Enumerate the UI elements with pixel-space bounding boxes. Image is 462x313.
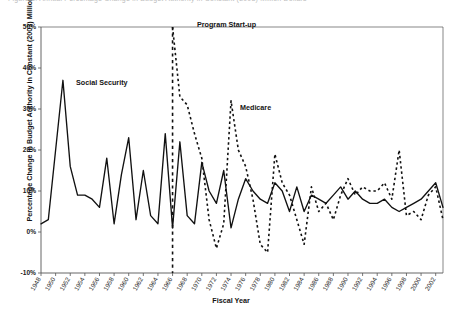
svg-text:0%: 0% <box>26 228 36 235</box>
svg-text:1986: 1986 <box>306 276 319 292</box>
chart-figure: Figure 5. Annual Percentage Change in Bu… <box>0 0 462 313</box>
svg-text:1948: 1948 <box>29 276 42 292</box>
svg-text:1960: 1960 <box>116 276 129 292</box>
svg-text:1950: 1950 <box>43 276 56 292</box>
svg-text:1984: 1984 <box>292 276 305 292</box>
svg-text:1994: 1994 <box>365 276 378 292</box>
svg-text:1954: 1954 <box>73 276 86 292</box>
axes-frame <box>41 27 443 273</box>
svg-text:1996: 1996 <box>380 276 393 292</box>
svg-text:2002: 2002 <box>423 276 436 292</box>
svg-text:1974: 1974 <box>219 276 232 292</box>
svg-text:1956: 1956 <box>87 276 100 292</box>
x-axis-tick-labels: 1948195019521954195619581960196219641966… <box>29 276 437 292</box>
svg-text:2000: 2000 <box>409 276 422 292</box>
svg-text:1962: 1962 <box>131 276 144 292</box>
svg-text:1980: 1980 <box>263 276 276 292</box>
svg-text:1990: 1990 <box>336 276 349 292</box>
svg-text:1964: 1964 <box>146 276 159 292</box>
svg-text:1978: 1978 <box>248 276 261 292</box>
svg-text:1998: 1998 <box>394 276 407 292</box>
plot-area: 50%40%30%20%10%0%-10% 194819501952195419… <box>0 0 462 313</box>
x-axis-title: Fiscal Year <box>0 296 462 305</box>
svg-text:1972: 1972 <box>204 276 217 292</box>
svg-text:1988: 1988 <box>321 276 334 292</box>
svg-text:1976: 1976 <box>233 276 246 292</box>
svg-text:1958: 1958 <box>102 276 115 292</box>
svg-text:-10%: -10% <box>21 269 37 276</box>
svg-text:1992: 1992 <box>350 276 363 292</box>
svg-text:1968: 1968 <box>175 276 188 292</box>
svg-text:1966: 1966 <box>160 276 173 292</box>
annotation-program-startup: Program Start-up <box>197 20 256 29</box>
svg-text:1982: 1982 <box>277 276 290 292</box>
svg-text:1952: 1952 <box>58 276 71 292</box>
x-axis-ticks <box>41 273 436 276</box>
series-line-medicare <box>173 27 443 253</box>
annotation-social-security: Social Security <box>76 78 128 87</box>
annotation-medicare: Medicare <box>240 103 271 112</box>
svg-text:1970: 1970 <box>189 276 202 292</box>
y-axis-title: Percentage Change in Budget Authority in… <box>25 52 34 222</box>
